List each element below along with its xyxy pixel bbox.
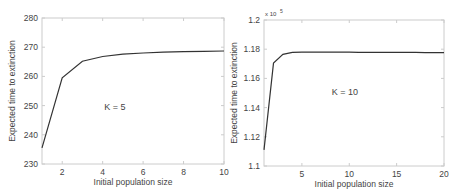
chart-canvas: 230240250260270280246810Initial populati…: [0, 0, 468, 193]
y-tick-label: 1.16: [243, 73, 260, 83]
y-tick-label: 1.1: [248, 161, 260, 171]
y-tick-label: 1.12: [243, 132, 260, 142]
x-tick-label: 10: [345, 169, 355, 179]
x-axis-label: Initial population size: [94, 177, 173, 187]
data-line: [42, 51, 224, 148]
y-tick-label: 270: [24, 42, 38, 52]
y-tick-label: 1.2: [248, 15, 260, 25]
x-tick-label: 6: [141, 167, 146, 177]
x-axis-label: Initial population size: [315, 179, 394, 189]
y-axis-label: Expected time to extinction: [229, 42, 239, 144]
right-plot-k10: 1.11.121.141.161.181.25101520Initial pop…: [229, 8, 449, 189]
y-axis-label: Expected time to extinction: [7, 40, 17, 142]
x-tick-label: 2: [60, 167, 65, 177]
y-tick-label: 250: [24, 101, 38, 111]
data-line: [264, 52, 444, 150]
y-tick-label: 240: [24, 130, 38, 140]
x-tick-label: 8: [181, 167, 186, 177]
left-plot-k5: 230240250260270280246810Initial populati…: [7, 13, 229, 187]
x-tick-label: 5: [300, 169, 305, 179]
y-tick-label: 260: [24, 71, 38, 81]
x-tick-label: 20: [439, 169, 449, 179]
k-annotation: K = 5: [104, 102, 125, 112]
y-tick-label: 1.18: [243, 44, 260, 54]
x-tick-label: 15: [392, 169, 402, 179]
y-tick-label: 280: [24, 13, 38, 23]
x-tick-label: 4: [100, 167, 105, 177]
x-tick-label: 10: [219, 167, 229, 177]
y-exponent-power: 5: [280, 8, 283, 14]
y-tick-label: 230: [24, 159, 38, 169]
y-tick-label: 1.14: [243, 103, 260, 113]
axes-frame: [42, 18, 224, 164]
k-annotation: K = 10: [332, 87, 358, 97]
y-exponent-label: x 10: [265, 11, 277, 17]
